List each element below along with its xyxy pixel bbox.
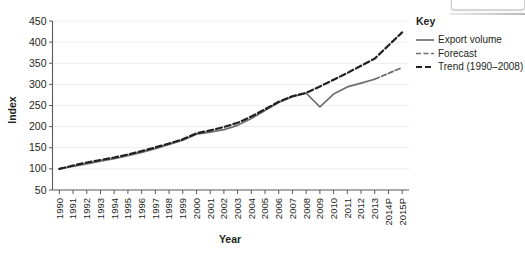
legend-title: Key <box>416 15 435 27</box>
series-line <box>59 32 402 168</box>
y-axis-title: Index <box>6 96 18 124</box>
chart-figure: 50100150200250300350400450 1990199119921… <box>0 0 525 255</box>
y-tick-label: 450 <box>29 15 47 27</box>
legend-label: Forecast <box>438 48 477 59</box>
x-tick-label: 2010 <box>328 198 339 219</box>
y-tick-label: 50 <box>35 184 47 196</box>
x-tick-label: 1990 <box>54 198 65 219</box>
page-corner-artifact <box>451 0 525 10</box>
x-axis-tick-labels: 1990199119921993199419951996199719981999… <box>54 198 408 225</box>
x-tick-label: 1998 <box>163 198 174 219</box>
y-tick-label: 400 <box>29 36 47 48</box>
x-tick-label: 2002 <box>218 198 229 219</box>
y-tick-label: 200 <box>29 120 47 132</box>
y-tick-label: 250 <box>29 99 47 111</box>
x-tick-label: 2006 <box>273 198 284 219</box>
y-axis-tick-labels: 50100150200250300350400450 <box>29 15 47 196</box>
x-tick-label: 2008 <box>301 198 312 219</box>
x-tick-label: 1995 <box>122 198 133 219</box>
gridlines <box>49 21 409 190</box>
x-tick-label: 1991 <box>67 198 78 219</box>
x-tick-label: 2004 <box>246 198 257 219</box>
series-line <box>59 79 374 169</box>
legend-items: Export volumeForecastTrend (1990–2008) <box>416 34 523 72</box>
x-tick-label: 1996 <box>136 198 147 219</box>
x-tick-label: 1999 <box>177 198 188 219</box>
x-tick-label: 2009 <box>314 198 325 219</box>
x-tick-label: 1997 <box>150 198 161 219</box>
x-tick-label: 1992 <box>81 198 92 219</box>
line-chart: 50100150200250300350400450 1990199119921… <box>0 0 525 255</box>
x-tick-label: 2007 <box>287 198 298 219</box>
x-tick-label: 2013 <box>369 198 380 219</box>
x-tick-label: 2003 <box>232 198 243 219</box>
y-tick-label: 150 <box>29 141 47 153</box>
x-tick-label: 2012 <box>355 198 366 219</box>
y-tick-label: 350 <box>29 57 47 69</box>
legend-label: Trend (1990–2008) <box>438 61 523 72</box>
page-edge-artifact <box>450 13 525 15</box>
x-tick-label: 2011 <box>342 198 353 218</box>
legend-label: Export volume <box>438 34 502 45</box>
x-tick-label: 2000 <box>191 198 202 219</box>
series-line <box>375 67 402 79</box>
y-tick-label: 300 <box>29 78 47 90</box>
y-tick-label: 100 <box>29 162 47 174</box>
x-axis-ticks <box>59 190 402 194</box>
x-tick-label: 2015P <box>397 198 408 225</box>
x-axis-title: Year <box>219 233 241 245</box>
data-series-layer <box>59 32 402 168</box>
x-tick-label: 2005 <box>259 198 270 219</box>
x-tick-label: 2001 <box>205 198 216 219</box>
x-tick-label: 1993 <box>95 198 106 219</box>
x-tick-label: 2014P <box>383 198 394 225</box>
x-tick-label: 1994 <box>109 198 120 219</box>
